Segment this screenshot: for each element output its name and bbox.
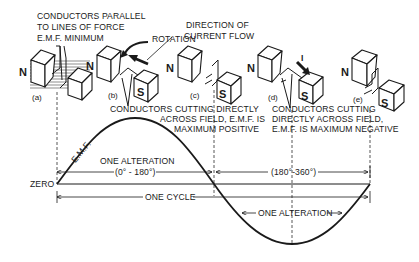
svg-text:TO LINES OF FORCE: TO LINES OF FORCE	[37, 22, 125, 32]
max-positive-label: CONDUCTORS CUTTING DIRECTLY ACROSS FIELD…	[110, 104, 265, 134]
current-symbol: I	[301, 53, 304, 63]
north-pole-label: N	[19, 66, 27, 78]
svg-text:N: N	[341, 66, 349, 78]
svg-text:DIRECTLY ACROSS FIELD,: DIRECTLY ACROSS FIELD,	[272, 114, 383, 124]
svg-text:S: S	[137, 86, 144, 98]
zero-label: ZERO	[30, 179, 54, 189]
svg-text:N: N	[86, 60, 94, 72]
stage-b-generator: N S (b)	[86, 37, 172, 106]
stage-tag: (e)	[353, 95, 363, 104]
svg-text:S: S	[381, 97, 388, 109]
svg-text:CONDUCTORS CUTTING: CONDUCTORS CUTTING	[272, 104, 376, 114]
max-negative-label: CONDUCTORS CUTTING DIRECTLY ACROSS FIELD…	[272, 104, 399, 134]
range-0-180: (0° - 180°)	[115, 167, 155, 177]
parallel-conductors-label: CONDUCTORS PARALLEL TO LINES OF FORCE E.…	[37, 11, 146, 43]
svg-text:N: N	[247, 62, 255, 74]
range-180-360: (180°-360°)	[271, 167, 316, 177]
svg-text:E.M.F. IS MAXIMUM NEGATIVE: E.M.F. IS MAXIMUM NEGATIVE	[272, 124, 399, 134]
stage-e-generator: N S (e)	[341, 50, 404, 111]
alteration-1-label: ONE ALTERATION	[100, 156, 175, 166]
svg-text:CONDUCTORS CUTTING DIRECTLY: CONDUCTORS CUTTING DIRECTLY	[110, 104, 259, 114]
svg-text:CONDUCTORS PARALLEL: CONDUCTORS PARALLEL	[37, 11, 146, 21]
stage-tag: (c)	[190, 91, 200, 100]
svg-text:DIRECTION OF: DIRECTION OF	[186, 20, 249, 30]
svg-text:MAXIMUM POSITIVE: MAXIMUM POSITIVE	[174, 124, 259, 134]
svg-text:ACROSS FIELD, E.M.F. IS: ACROSS FIELD, E.M.F. IS	[160, 114, 265, 124]
stage-d-generator: N S (d) I	[247, 46, 323, 108]
stage-tag: (d)	[268, 93, 278, 102]
stage-c-generator: N S (c)	[166, 46, 241, 104]
direction-of-current-label: DIRECTION OF CURRENT FLOW	[184, 20, 255, 41]
svg-text:S: S	[219, 88, 226, 100]
svg-text:CURRENT FLOW: CURRENT FLOW	[184, 31, 255, 41]
stage-a-generator: N (a)	[19, 46, 92, 102]
stage-tag: (b)	[108, 91, 118, 100]
svg-text:N: N	[166, 62, 174, 74]
stage-tag: (a)	[32, 93, 42, 102]
emf-label: E.M.F.	[69, 139, 93, 165]
svg-text:E.M.F. MINIMUM: E.M.F. MINIMUM	[37, 33, 104, 43]
ac-generator-sine-wave-diagram: CONDUCTORS PARALLEL TO LINES OF FORCE E.…	[0, 0, 419, 262]
sine-wave-curve	[57, 118, 370, 244]
one-cycle-label: ONE CYCLE	[145, 192, 196, 202]
rotation-arrow	[124, 42, 148, 55]
svg-text:S: S	[301, 90, 308, 102]
alteration-2-label: ONE ALTERATION	[258, 208, 333, 218]
